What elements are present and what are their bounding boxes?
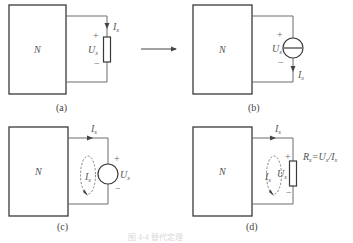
current-arrow-icon — [270, 136, 276, 141]
resistor-icon — [104, 37, 111, 62]
panel-caption: (b) — [248, 102, 260, 114]
current-arrow-icon — [291, 66, 296, 72]
loop-current-label: Ix — [84, 171, 91, 183]
loop-current-label: Ix — [264, 171, 271, 183]
voltage-label: Ux — [277, 168, 287, 180]
current-label: Ix — [274, 123, 281, 135]
network-label: N — [218, 166, 227, 177]
plus-sign: + — [285, 151, 291, 162]
current-label: Ix — [90, 123, 97, 135]
voltage-label: Ux — [120, 169, 130, 181]
top-wire — [66, 16, 107, 37]
bottom-wire — [252, 58, 293, 82]
plus-sign: + — [277, 29, 283, 40]
resistance-label: Rx=Ux/Ix — [302, 151, 338, 163]
current-arrow-icon — [105, 23, 110, 29]
panel-c: N Ix + Ux − Ix (c) — [9, 123, 130, 233]
voltage-source-icon — [98, 164, 118, 184]
panel-caption: (d) — [246, 221, 258, 233]
plus-sign: + — [114, 153, 120, 164]
network-label: N — [218, 44, 227, 55]
plus-sign: + — [93, 30, 99, 41]
current-label: Ix — [112, 21, 119, 33]
top-wire — [68, 138, 108, 164]
panel-d: N Ix + − Ux Rx=Ux/Ix Ix (d) — [193, 123, 338, 233]
voltage-label: Ux — [272, 43, 282, 55]
minus-sign: − — [94, 58, 100, 69]
substitution-theorem-figure: N Ix + Ux − (a) N Ix + Ux − (b) N Ix — [0, 0, 353, 243]
panel-a: N Ix + Ux − (a) — [9, 5, 119, 114]
minus-sign: − — [115, 183, 121, 194]
bottom-wire — [68, 184, 108, 204]
panel-caption: (c) — [57, 221, 68, 233]
resistor-icon — [290, 161, 297, 186]
current-label: Ix — [297, 69, 304, 81]
network-label: N — [34, 166, 43, 177]
panel-caption: (a) — [56, 102, 67, 114]
top-wire — [252, 16, 293, 38]
current-arrow-icon — [87, 136, 93, 141]
figure-caption: 图 4-4 替代定理 — [128, 232, 183, 242]
network-label: N — [33, 44, 42, 55]
voltage-label: Ux — [88, 44, 98, 56]
minus-sign: − — [286, 187, 292, 198]
bottom-wire — [66, 62, 107, 82]
minus-sign: − — [278, 57, 284, 68]
panel-b: N Ix + Ux − (b) — [193, 5, 304, 114]
